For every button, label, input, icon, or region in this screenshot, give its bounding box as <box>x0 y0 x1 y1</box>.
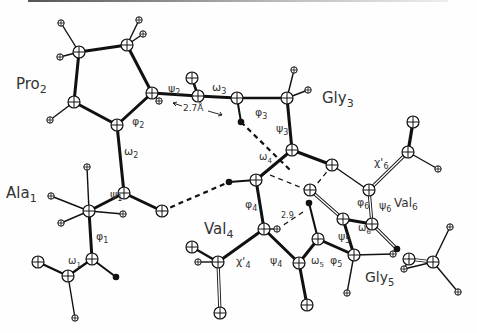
label-val4: Val4 <box>204 220 233 241</box>
svg-text:ω5: ω5 <box>311 255 324 269</box>
svg-text:ψ3: ψ3 <box>276 122 288 137</box>
svg-text:ω2: ω2 <box>124 145 138 160</box>
svg-text:φ3: φ3 <box>255 106 267 121</box>
svg-text:2.7Å: 2.7Å <box>183 102 204 113</box>
molecule-drawing: Pro2 Gly3 Ala1 Val4 Val6 Gly5 ψ2 ω3 φ2 ω… <box>0 0 477 333</box>
label-ala1: Ala1 <box>6 184 37 205</box>
hydrogen-atoms <box>47 17 461 321</box>
svg-text:φ6: φ6 <box>357 196 369 211</box>
svg-text:φ5: φ5 <box>330 254 342 269</box>
svg-text:ψ4: ψ4 <box>270 254 282 269</box>
open-bonds <box>218 122 433 313</box>
svg-text:φ2: φ2 <box>132 115 144 130</box>
svg-text:φ4: φ4 <box>245 198 257 213</box>
svg-text:ω1: ω1 <box>68 255 81 269</box>
label-val6: Val6 <box>394 196 418 212</box>
thin-bonds <box>50 20 458 318</box>
svg-text:2.9: 2.9 <box>281 211 294 220</box>
torsion-labels: ψ2 ω3 φ2 ω2 φ3 ψ3 ω4 ψ1 φ1 ω1 φ4 χ'4 ψ4 … <box>68 81 391 270</box>
label-gly3: Gly3 <box>322 89 354 110</box>
molecule-figure: Pro2 Gly3 Ala1 Val4 Val6 Gly5 ψ2 ω3 φ2 ω… <box>0 0 477 333</box>
svg-text:φ1: φ1 <box>96 230 108 245</box>
svg-text:ω4: ω4 <box>259 151 272 165</box>
label-pro2: Pro2 <box>16 75 47 96</box>
svg-text:ω3: ω3 <box>212 81 226 96</box>
svg-text:ψ2: ψ2 <box>168 82 180 97</box>
svg-text:ψ6: ψ6 <box>379 199 391 214</box>
svg-text:χ'6: χ'6 <box>374 156 388 171</box>
svg-text:χ'4: χ'4 <box>236 255 250 270</box>
label-gly5: Gly5 <box>365 269 394 288</box>
